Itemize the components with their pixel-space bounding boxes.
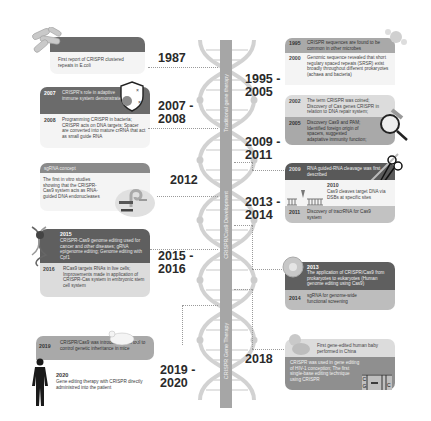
- event-text-1995: CRISPR sequences are found to be common …: [307, 40, 387, 51]
- shield-virus-icon: × ×: [118, 80, 146, 112]
- era-label-gene-therapy: CRISPR Gene Therapy: [223, 319, 229, 383]
- connector-2009-b: [252, 170, 286, 171]
- card-2016: 2016 RCas9 targets RNAs in live cells; I…: [40, 263, 150, 297]
- year-label-1995-2005: 1995 - 2005: [245, 73, 280, 99]
- svg-text:×: ×: [138, 99, 141, 105]
- era-label-traditional: Traditional gene therapy: [223, 71, 229, 135]
- event-text-2015: CRISPR-Cas9 genome editing used for canc…: [60, 238, 148, 260]
- event-year-2011: 2011: [289, 209, 300, 215]
- event-text-2007: CRISPR's role in adaptive immune system …: [62, 90, 124, 101]
- event-text-2018-baby: First gene-edited human baby performed i…: [317, 343, 387, 354]
- year-label-2009-2011: 2009 - 2011: [245, 136, 280, 162]
- connector-2013-v: [252, 225, 253, 269]
- event-year-2009: 2009: [289, 166, 301, 172]
- bacteria-icon: [30, 27, 66, 57]
- connector-2007: [148, 128, 218, 129]
- microbe-icon: [383, 24, 409, 50]
- magnifier-dna-icon: [376, 108, 410, 142]
- connector-2009-v: [252, 162, 253, 170]
- event-year-1995: 1995: [289, 40, 301, 46]
- base-edit-icon: C G C: [362, 374, 392, 390]
- year-label-2015-2016: 2015 - 2016: [158, 250, 193, 276]
- event-year-2002: 2002: [289, 98, 301, 104]
- connector-2018-a: [234, 289, 252, 290]
- event-text-2005: Discovery Cas9 and PAM; Identified forei…: [307, 120, 369, 142]
- year-label-2007-2008: 2007 - 2008: [158, 100, 193, 126]
- event-text-2010: Cas9 cleaves target DNA via DSBs at spec…: [327, 189, 393, 200]
- event-year-2005: 2005: [289, 120, 301, 126]
- dsb-cut-icon: [287, 190, 331, 206]
- event-year-2015: 2015: [60, 231, 72, 237]
- event-text-1987: First report of CRISPR clustered repeats…: [58, 57, 138, 68]
- event-year-2019: 2019: [39, 343, 51, 349]
- card-2015: 2015 CRISPR-Cas9 genome editing used for…: [40, 229, 150, 264]
- connector-2019-h: [182, 305, 218, 306]
- card-2014: 2014 sgRNA for genome-wide functional sc…: [285, 290, 395, 310]
- event-year-2007: 2007: [44, 90, 56, 96]
- connector-2018-b: [252, 349, 286, 350]
- cell-icon: [282, 256, 304, 278]
- event-year-2010: 2010: [327, 182, 339, 188]
- card-2008: 2008 Programming CRISPR in bacteria; CRI…: [40, 114, 150, 148]
- year-label-2019-2020: 2019 - 2020: [160, 364, 195, 390]
- year-label-1987: 1987: [158, 52, 186, 65]
- event-text-2014: sgRNA for genome-wide functional screeni…: [307, 293, 367, 304]
- event-text-2020: Gene editing therapy with CRISPR directl…: [56, 379, 146, 390]
- connector-1987: [148, 67, 218, 68]
- event-year-2014: 2014: [289, 295, 301, 301]
- event-header-2012: sgRNA concept: [44, 166, 76, 172]
- connector-2015: [150, 249, 218, 250]
- era-label-development: CRISPR/Cas9 Development: [223, 187, 229, 263]
- svg-text:G: G: [363, 383, 367, 389]
- mouse-icon: [106, 330, 140, 346]
- connector-2009-a: [234, 162, 252, 163]
- human-figure-icon: [30, 358, 50, 408]
- event-text-2012: The first in vitro studies showing that …: [43, 177, 107, 199]
- card-2011: 2011 Discovery of tracrRNA for Cas9 syst…: [285, 206, 395, 223]
- event-year-2008: 2008: [44, 117, 56, 123]
- year-label-2012: 2012: [170, 174, 198, 187]
- card-2000: 2000 Genomic sequence revealed that shor…: [285, 53, 395, 85]
- connector-2013-a: [234, 225, 252, 226]
- connector-2019-v: [182, 305, 183, 345]
- event-text-2008: Programming CRISPR in bacteria; CRISPR a…: [62, 117, 146, 139]
- event-text-2018-hiv: CRISPR was used in gene editing of HIV-1…: [290, 360, 360, 382]
- year-label-2013-2014: 2013 - 2014: [245, 196, 280, 222]
- connector-2013-b: [252, 269, 286, 270]
- connector-2012: [157, 196, 218, 197]
- card-1995: 1995 CRISPR sequences are found to be co…: [285, 38, 395, 53]
- connector-2018-v: [252, 289, 253, 349]
- event-text-2011: Discovery of tracrRNA for Cas9 system: [307, 209, 377, 220]
- dna-strand-icon: [28, 225, 50, 267]
- baby-icon: [286, 333, 312, 357]
- svg-text:C: C: [363, 376, 367, 382]
- event-text-2000: Genomic sequence revealed that short reg…: [307, 55, 393, 77]
- svg-text:×: ×: [136, 87, 139, 93]
- sgrna-complex-icon: [113, 185, 157, 219]
- event-year-2000: 2000: [289, 55, 301, 61]
- year-label-2018: 2018: [245, 353, 273, 366]
- svg-text:C: C: [387, 382, 391, 388]
- event-text-2013: The application of CRISPR/Cas9 from prok…: [307, 270, 393, 287]
- event-text-2016: RCas9 targets RNAs in live cells; Improv…: [63, 266, 147, 288]
- event-year-2020: 2020: [56, 372, 68, 378]
